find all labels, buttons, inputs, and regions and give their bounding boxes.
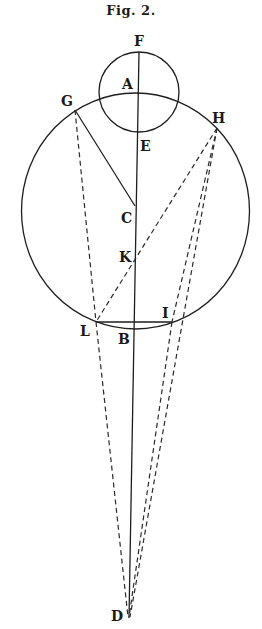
line-G-C: [75, 110, 135, 206]
line-G-L: [75, 110, 96, 322]
large-circle: [22, 93, 250, 329]
label-I: I: [162, 305, 169, 321]
label-C: C: [121, 210, 132, 226]
label-E: E: [140, 138, 151, 154]
label-A: A: [121, 76, 134, 92]
label-L: L: [80, 323, 90, 339]
line-H-L: [96, 128, 217, 322]
label-G: G: [61, 93, 73, 109]
line-F-D: [129, 52, 139, 618]
line-I-D: [129, 322, 172, 617]
label-K: K: [119, 249, 132, 265]
label-D: D: [111, 608, 123, 624]
label-F: F: [134, 33, 144, 49]
geometry-diagram: F A G H E C K L I B D: [0, 0, 262, 629]
line-H-I: [172, 128, 217, 322]
line-H-D: [130, 128, 217, 617]
line-L-D: [96, 322, 128, 617]
label-B: B: [118, 331, 130, 347]
label-H: H: [212, 110, 225, 126]
